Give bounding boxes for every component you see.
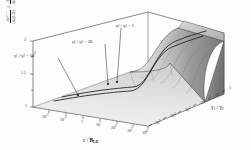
x-axis-label: ε / BLD xyxy=(83,138,98,144)
y-axis-denominator: dσN=1 dΩ(LD) xyxy=(4,0,16,4)
y-den-denominator: dΩ(LD) xyxy=(10,0,16,4)
y-num-denominator: dΩ(LD) xyxy=(10,10,16,23)
y-tick-2: 2 xyxy=(24,38,26,42)
y-axis-label: dσN=2 dΩ(LD) / dσN=1 dΩ(LD) xyxy=(4,0,16,40)
z-tick-10: 10 xyxy=(215,93,219,97)
z-tick-1: 1 xyxy=(229,86,231,90)
x-tick-1e-2: 10-2 xyxy=(42,114,49,119)
z-tick-1e5: 105 xyxy=(155,120,161,125)
x-tick-1: 1 xyxy=(81,120,83,124)
annotation-gamma-ratio-1: γ1 / γ2 = 1 xyxy=(116,22,134,28)
z-tick-1e4: 104 xyxy=(170,113,176,118)
y-axis-slash: / xyxy=(6,5,12,9)
z-tick-1e2: 102 xyxy=(200,100,206,105)
x-tick-10: 10 xyxy=(96,123,100,127)
y-axis-ticks xyxy=(30,41,33,107)
y-tick-1: 1 xyxy=(25,104,27,108)
z-tick-1e3: 103 xyxy=(185,107,191,112)
x-tick-1e-1: 10-1 xyxy=(60,117,67,122)
annotation-gamma-ratio-100: γ1 / γ2 = 102 xyxy=(14,52,36,58)
y-num-superscript: N=2 xyxy=(4,12,8,17)
x-tick-1e2: 102 xyxy=(111,125,117,130)
figure-3d-surface-plot: dσN=2 dΩ(LD) / dσN=1 dΩ(LD) 2 1.5 1 10-2… xyxy=(0,0,251,150)
y-axis-numerator: dσN=2 dΩ(LD) xyxy=(4,10,16,23)
y-tick-1p5: 1.5 xyxy=(21,71,26,75)
x-tick-1e4: 104 xyxy=(142,130,148,135)
annotation-gamma-ratio-10: γ1 / γ2 = 10 xyxy=(72,38,92,44)
z-axis-label: γ1 / γ2 xyxy=(211,105,224,111)
x-tick-1e3: 103 xyxy=(127,128,133,133)
